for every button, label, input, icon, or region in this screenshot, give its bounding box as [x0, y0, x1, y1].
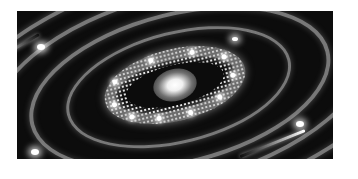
lower-left-bright-spot — [31, 149, 39, 155]
upper-left-bright-spot — [37, 44, 45, 50]
galaxy-image — [17, 11, 333, 159]
upper-right-bright-spot — [232, 37, 238, 41]
lower-right-bright-spot — [296, 121, 304, 127]
